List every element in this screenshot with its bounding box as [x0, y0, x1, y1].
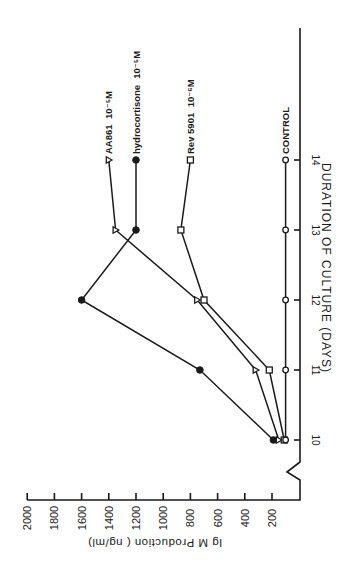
igm-production-chart: 200400600800100012001400160018002000Ig M… [0, 0, 348, 563]
open-triangle-marker [253, 367, 259, 373]
open-square-marker [201, 297, 207, 303]
filled-circle-marker [197, 367, 204, 374]
value-tick-label: 600 [212, 509, 224, 527]
filled-circle-marker [78, 297, 85, 304]
value-tick-label: 1200 [130, 506, 142, 530]
value-tick-label: 1000 [157, 506, 169, 530]
series-control: CONTROL [280, 107, 291, 443]
series-rev-5901: Rev 590110⁻⁶M [178, 79, 287, 443]
axis-lines [27, 28, 300, 500]
open-circle-marker [283, 227, 289, 233]
chart-svg: 200400600800100012001400160018002000Ig M… [0, 0, 348, 563]
value-tick-label: 800 [184, 509, 196, 527]
series-label: hydrocortisone10⁻⁵M [131, 51, 142, 154]
open-circle-marker [283, 297, 289, 303]
value-axis-title: Ig M Production ( ng/ml) [88, 537, 223, 549]
value-tick-label: 1400 [103, 506, 115, 530]
open-circle-marker [283, 437, 289, 443]
open-square-marker [266, 367, 272, 373]
day-axis-title: DURATION OF CULTURE (DAYS) [319, 163, 333, 373]
open-circle-marker [283, 157, 289, 163]
filled-circle-marker [133, 157, 140, 164]
open-square-marker [187, 157, 193, 163]
value-tick-label: 1600 [76, 506, 88, 530]
value-tick-label: 400 [239, 509, 251, 527]
value-tick-label: 2000 [21, 506, 33, 530]
series-label: Rev 590110⁻⁶M [185, 79, 196, 154]
open-square-marker [178, 227, 184, 233]
filled-circle-marker [270, 437, 277, 444]
open-circle-marker [283, 367, 289, 373]
value-tick-label: 200 [266, 509, 278, 527]
series-line [82, 160, 274, 440]
day-tick-label: 10 [310, 434, 321, 446]
series-label: CONTROL [280, 107, 291, 154]
series-label: AA86110⁻⁵M [103, 91, 114, 154]
value-tick-label: 1800 [48, 506, 60, 530]
series-line [109, 160, 279, 440]
open-triangle-marker [106, 157, 112, 163]
filled-circle-marker [133, 227, 140, 234]
